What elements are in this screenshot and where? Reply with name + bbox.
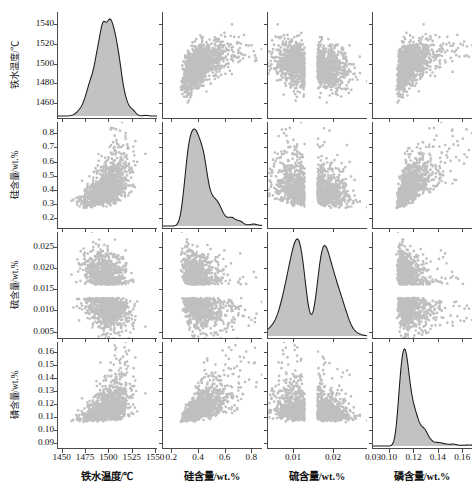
y-axis-tick-label: 0.7 — [16, 141, 54, 151]
point-cloud — [57, 122, 157, 228]
y-tick-mark — [54, 310, 58, 311]
panel-bottom-spine — [162, 228, 262, 229]
y-axis-tick-label: 0.3 — [16, 198, 54, 208]
scatter-points — [267, 122, 367, 209]
point-cloud — [267, 342, 367, 448]
y-tick-mark — [54, 443, 58, 444]
scatter-points — [395, 232, 472, 338]
x-axis-tick-label: 0.01 — [274, 452, 312, 462]
y-tick-mark — [369, 218, 373, 219]
y-tick-mark — [159, 430, 163, 431]
density-curve — [267, 232, 367, 338]
panel-left-spine — [162, 232, 163, 338]
scatter-points — [70, 232, 147, 338]
y-tick-mark — [159, 64, 163, 65]
y-tick-mark — [264, 133, 268, 134]
y-axis-title-p_content: 磷含量/wt.% — [7, 342, 21, 448]
x-axis-title-si_content: 硅含量/wt.% — [162, 468, 262, 483]
y-tick-mark — [54, 378, 58, 379]
y-axis-tick-label: 0.6 — [16, 156, 54, 166]
y-tick-mark — [264, 268, 268, 269]
panel-bottom-spine — [57, 228, 157, 229]
density-curve — [57, 12, 157, 118]
panel-bottom-spine — [372, 228, 472, 229]
y-tick-mark — [159, 391, 163, 392]
y-tick-mark — [54, 24, 58, 25]
y-tick-mark — [159, 190, 163, 191]
point-cloud — [162, 232, 262, 338]
point-cloud — [267, 12, 367, 118]
density-fill — [162, 129, 262, 226]
y-tick-mark — [159, 103, 163, 104]
y-axis-title-s_content: 硫含量/wt.% — [7, 232, 21, 338]
y-tick-mark — [264, 64, 268, 65]
y-axis-tick-label: 0.8 — [16, 127, 54, 137]
density-panel-p_content — [372, 342, 472, 448]
density-curve — [162, 122, 262, 228]
y-axis-tick-label: 0.5 — [16, 170, 54, 180]
y-tick-mark — [369, 176, 373, 177]
y-tick-mark — [54, 162, 58, 163]
y-tick-mark — [54, 204, 58, 205]
y-tick-mark — [369, 83, 373, 84]
y-tick-mark — [369, 289, 373, 290]
point-cloud — [162, 342, 262, 448]
scatter-points — [180, 232, 262, 338]
panel-bottom-spine — [267, 338, 367, 339]
y-tick-mark — [159, 352, 163, 353]
y-tick-mark — [54, 365, 58, 366]
y-tick-mark — [54, 190, 58, 191]
panel-left-spine — [57, 342, 58, 448]
panel-bottom-spine — [57, 118, 157, 119]
y-tick-mark — [264, 289, 268, 290]
y-tick-mark — [159, 289, 163, 290]
y-tick-mark — [159, 443, 163, 444]
y-tick-mark — [159, 332, 163, 333]
y-tick-mark — [369, 404, 373, 405]
y-tick-mark — [264, 162, 268, 163]
y-axis-tick-label: 0.015 — [16, 283, 54, 293]
y-axis-tick-label: 0.020 — [16, 262, 54, 272]
y-axis-tick-label: 0.09 — [16, 437, 54, 447]
scatter-panel-si_content-vs-p_content — [162, 342, 262, 448]
y-tick-mark — [264, 247, 268, 248]
scatter-panel-s_content-vs-iron_temp — [267, 12, 367, 118]
y-tick-mark — [54, 83, 58, 84]
x-axis-tick-label: 0.8 — [232, 452, 270, 462]
y-tick-mark — [369, 64, 373, 65]
panel-left-spine — [162, 12, 163, 118]
y-tick-mark — [159, 44, 163, 45]
y-tick-mark — [264, 218, 268, 219]
y-tick-mark — [54, 391, 58, 392]
y-axis-tick-label: 0.4 — [16, 184, 54, 194]
y-tick-mark — [54, 218, 58, 219]
y-tick-mark — [54, 404, 58, 405]
y-axis-tick-label: 1540 — [16, 18, 54, 28]
density-fill — [372, 349, 472, 446]
scatter-points — [267, 23, 367, 104]
y-axis-tick-label: 0.2 — [16, 212, 54, 222]
y-tick-mark — [369, 332, 373, 333]
x-axis-title-p_content: 磷含量/wt.% — [372, 468, 472, 483]
x-axis-title-s_content: 硫含量/wt.% — [267, 468, 367, 483]
y-tick-mark — [369, 417, 373, 418]
panel-bottom-spine — [267, 448, 367, 449]
y-tick-mark — [369, 162, 373, 163]
y-axis-tick-label: 0.14 — [16, 372, 54, 382]
point-cloud — [57, 232, 157, 338]
density-panel-iron_temp — [57, 12, 157, 118]
scatter-panel-si_content-vs-iron_temp — [162, 12, 262, 118]
y-tick-mark — [159, 176, 163, 177]
scatter-points — [180, 23, 262, 104]
y-tick-mark — [159, 24, 163, 25]
y-tick-mark — [369, 133, 373, 134]
y-axis-tick-label: 0.005 — [16, 326, 54, 336]
y-tick-mark — [369, 44, 373, 45]
y-tick-mark — [54, 332, 58, 333]
y-tick-mark — [54, 352, 58, 353]
y-axis-tick-label: 0.10 — [16, 424, 54, 434]
y-tick-mark — [54, 289, 58, 290]
y-tick-mark — [159, 218, 163, 219]
y-tick-mark — [369, 103, 373, 104]
y-tick-mark — [54, 417, 58, 418]
